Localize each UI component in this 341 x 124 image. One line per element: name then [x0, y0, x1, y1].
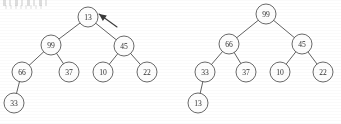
- node-label: 22: [319, 68, 327, 77]
- tree-node: 13: [188, 93, 208, 113]
- tree-edge: [56, 53, 63, 64]
- node-label: 45: [298, 40, 306, 49]
- tree-diagram-canvas: 13994566371022339966453337102213: [0, 0, 341, 124]
- arrow-head: [99, 14, 107, 21]
- tree-edge: [200, 81, 203, 93]
- tree-edge: [236, 20, 258, 38]
- tree-node: 10: [270, 62, 290, 82]
- tree-edge: [130, 53, 140, 65]
- node-label: 45: [120, 42, 128, 51]
- edges-layer: [16, 20, 317, 94]
- tree-node: 66: [12, 62, 32, 82]
- root-pointer-arrow: [99, 14, 117, 27]
- nodes-layer: 13994566371022339966453337102213: [4, 4, 333, 113]
- tree-edge: [211, 51, 223, 64]
- figure-root: 13994566371022339966453337102213: [0, 0, 341, 124]
- tree-node: 22: [313, 62, 333, 82]
- tree-node: 33: [4, 93, 24, 113]
- tree-node: 10: [93, 62, 113, 82]
- tree-edge: [95, 23, 116, 40]
- tree-edge: [286, 52, 296, 65]
- node-label: 10: [99, 68, 107, 77]
- node-label: 33: [201, 68, 209, 77]
- node-label: 37: [65, 68, 73, 77]
- tree-edge: [109, 53, 118, 64]
- tree-edge: [234, 52, 241, 64]
- tree-edge: [16, 81, 19, 93]
- node-label: 99: [47, 41, 55, 50]
- tree-node: 22: [137, 62, 157, 82]
- tree-edge: [29, 52, 44, 66]
- node-label: 99: [262, 10, 270, 19]
- node-label: 37: [242, 68, 250, 77]
- tree-node: 45: [292, 34, 312, 54]
- node-label: 10: [276, 68, 284, 77]
- tree-node: 99: [256, 4, 276, 24]
- tree-edge: [273, 20, 294, 38]
- annotations-layer: [99, 14, 117, 27]
- node-label: 22: [143, 68, 151, 77]
- tree-node: 33: [195, 62, 215, 82]
- node-label: 66: [225, 40, 233, 49]
- tree-node: 37: [59, 62, 79, 82]
- node-label: 13: [84, 13, 92, 22]
- tree-edge: [59, 23, 81, 39]
- tree-node: 45: [114, 36, 134, 56]
- node-label: 13: [194, 99, 202, 108]
- tree-edge: [308, 52, 317, 65]
- node-label: 66: [18, 68, 26, 77]
- tree-node: 66: [219, 34, 239, 54]
- tree-node: 37: [236, 62, 256, 82]
- node-label: 33: [10, 99, 18, 108]
- tree-node: 99: [41, 35, 61, 55]
- tree-node: 13: [78, 7, 98, 27]
